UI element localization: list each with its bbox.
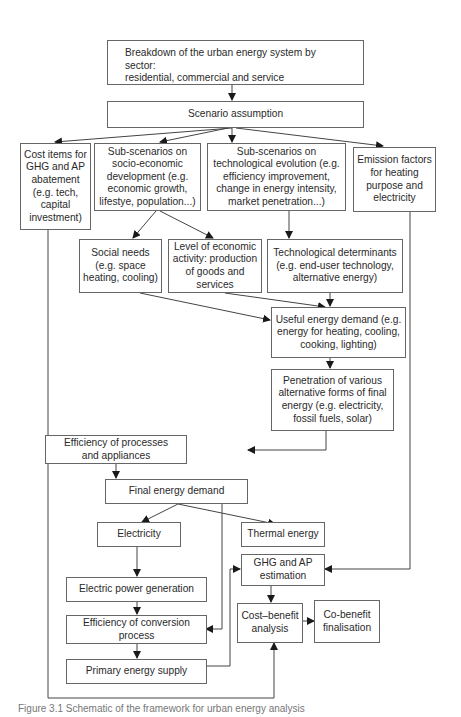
node-breakdown: Breakdown of the urban energy system by … — [107, 40, 364, 85]
node-co-benefit: Co-benefit finalisation — [314, 600, 380, 643]
node-tech-evolution: Sub-scenarios on technological evolution… — [207, 143, 346, 211]
node-tech-evolution-label: Sub-scenarios on technological evolution… — [213, 146, 339, 209]
node-thermal-energy: Thermal energy — [241, 522, 325, 547]
node-power-generation-label: Electric power generation — [79, 583, 194, 596]
node-social-needs: Social needs (e.g. space heating, coolin… — [79, 239, 162, 293]
node-penetration: Penetration of various alternative forms… — [271, 369, 394, 431]
node-thermal-energy-label: Thermal energy — [247, 528, 318, 541]
node-scenario-assumption-label: Scenario assumption — [188, 108, 283, 121]
node-conversion-efficiency: Efficiency of conversion process — [66, 615, 207, 644]
node-efficiency-processes-label: Efficiency of processes and appliances — [64, 437, 168, 462]
node-primary-energy-supply-label: Primary energy supply — [86, 665, 187, 678]
node-conversion-efficiency-label: Efficiency of conversion process — [83, 617, 190, 642]
node-power-generation: Electric power generation — [66, 577, 207, 602]
node-cost-benefit: Cost–benefit analysis — [237, 603, 303, 643]
node-efficiency-processes: Efficiency of processes and appliances — [45, 435, 187, 464]
node-final-energy-demand: Final energy demand — [105, 479, 248, 504]
node-socio-economic-label: Sub-scenarios on socio-economic developm… — [99, 146, 195, 209]
node-emission-factors: Emission factors for heating purpose and… — [353, 147, 436, 212]
node-penetration-label: Penetration of various alternative forms… — [278, 375, 386, 425]
node-cost-benefit-label: Cost–benefit analysis — [241, 610, 298, 635]
node-useful-energy: Useful energy demand (e.g. energy for he… — [271, 307, 406, 358]
node-ghg-estimation-label: GHG and AP estimation — [254, 557, 313, 582]
node-tech-determinants-label: Technological determinants (e.g. end-use… — [273, 247, 396, 285]
node-scenario-assumption: Scenario assumption — [107, 101, 364, 128]
node-ghg-estimation: GHG and AP estimation — [241, 554, 325, 586]
node-co-benefit-label: Co-benefit finalisation — [323, 609, 371, 634]
node-economic-activity: Level of economic activity: production o… — [168, 239, 262, 293]
node-primary-energy-supply: Primary energy supply — [66, 659, 207, 684]
node-economic-activity-label: Level of economic activity: production o… — [173, 241, 257, 291]
node-socio-economic: Sub-scenarios on socio-economic developm… — [94, 143, 201, 211]
node-tech-determinants: Technological determinants (e.g. end-use… — [267, 239, 403, 293]
node-cost-items-label: Cost items for GHG and AP abatement (e.g… — [24, 149, 87, 225]
node-social-needs-label: Social needs (e.g. space heating, coolin… — [83, 247, 158, 285]
figure-caption: Figure 3.1 Schematic of the framework fo… — [18, 703, 305, 714]
flowchart: Breakdown of the urban energy system by … — [0, 0, 461, 717]
node-breakdown-label: Breakdown of the urban energy system by … — [125, 47, 346, 85]
node-electricity: Electricity — [97, 522, 181, 547]
node-emission-factors-label: Emission factors for heating purpose and… — [357, 154, 432, 204]
node-useful-energy-label: Useful energy demand (e.g. energy for he… — [276, 314, 402, 352]
node-cost-items: Cost items for GHG and AP abatement (e.g… — [20, 143, 91, 230]
node-final-energy-demand-label: Final energy demand — [129, 485, 225, 498]
node-electricity-label: Electricity — [117, 528, 161, 541]
